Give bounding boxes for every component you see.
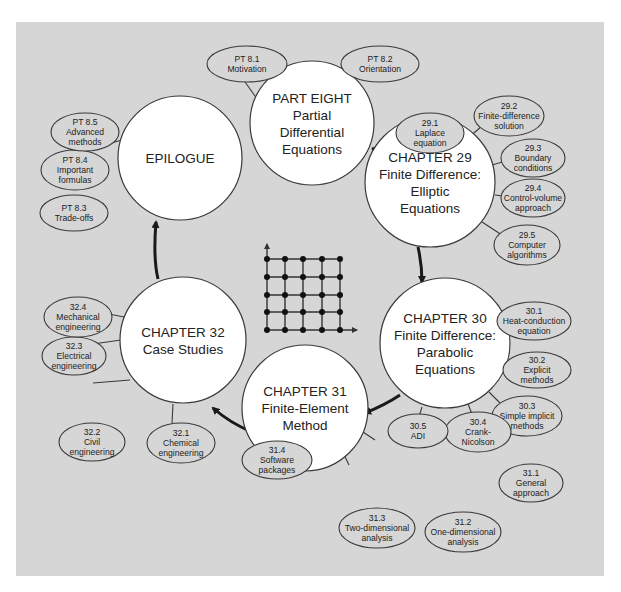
node-label: CHAPTER 31 (263, 384, 346, 399)
topic-label: formulas (59, 175, 92, 185)
topic-label: methods (521, 375, 554, 385)
topic-label: Boundary (515, 153, 552, 163)
topic-label: analysis (361, 533, 392, 543)
topic-pt-8-2: PT 8.2Orientation (341, 46, 419, 82)
topic-32-1: 32.1Chemicalengineering (147, 423, 215, 463)
topic-label: Simple implicit (500, 411, 556, 421)
topic-pt-8-1: PT 8.1Motivation (207, 46, 287, 82)
topic-number: PT 8.3 (61, 203, 86, 213)
node-label: Case Studies (143, 342, 224, 357)
topic-30-5: 30.5ADI (388, 414, 448, 448)
topic-number: 30.5 (410, 421, 427, 431)
topic-label: analysis (447, 537, 478, 547)
node-label: Equations (415, 362, 475, 377)
node-label: Finite Difference: (379, 167, 481, 182)
topic-label: Two-dimensional (345, 523, 410, 533)
topic-label: solution (494, 121, 524, 131)
topic-29-3: 29.3Boundaryconditions (501, 139, 565, 177)
node-label: Equations (400, 201, 460, 216)
node-label: Finite-Element (261, 401, 348, 416)
topic-pt-8-4: PT 8.4Importantformulas (41, 150, 109, 190)
diagram-canvas: PART EIGHTPartialDifferentialEquationsCH… (0, 0, 621, 592)
topic-number: 31.3 (369, 513, 386, 523)
topic-30-2: 30.2Explicitmethods (503, 352, 571, 388)
topic-label: ADI (411, 431, 425, 441)
topic-number: 31.2 (455, 517, 472, 527)
topic-label: equation (414, 138, 447, 148)
topic-label: engineering (52, 361, 97, 371)
topic-pt-8-3: PT 8.3Trade-offs (40, 195, 108, 231)
topic-label: engineering (56, 322, 101, 332)
topic-31-2: 31.2One-dimensionalanalysis (425, 512, 501, 552)
node-label: Finite Difference: (394, 328, 496, 343)
topic-label: Motivation (227, 64, 266, 74)
topic-label: packages (259, 465, 296, 475)
node-label: Parabolic (417, 345, 474, 360)
node-label: EPILOGUE (145, 151, 214, 166)
node-label: Partial (293, 108, 331, 123)
topic-label: Advanced (66, 127, 104, 137)
topic-label: Orientation (359, 64, 401, 74)
topic-number: 30.1 (526, 306, 543, 316)
topic-29-5: 29.5Computeralgorithms (494, 225, 560, 265)
node-label: Differential (280, 125, 344, 140)
topic-label: Computer (508, 240, 546, 250)
node-label: CHAPTER 32 (141, 325, 224, 340)
node-label: PART EIGHT (272, 91, 352, 106)
topic-31-3: 31.3Two-dimensionalanalysis (339, 508, 415, 548)
topic-label: Nicolson (462, 437, 495, 447)
topic-31-4: 31.4Softwarepackages (242, 441, 312, 479)
topic-number: 29.1 (422, 118, 439, 128)
topic-number: PT 8.2 (367, 54, 392, 64)
topic-number: PT 8.5 (72, 117, 97, 127)
topic-label: Laplace (415, 128, 445, 138)
topic-label: Control-volume (504, 193, 562, 203)
topic-30-4: 30.4Crank-Nicolson (445, 412, 511, 452)
topic-label: engineering (159, 448, 204, 458)
topic-label: Crank- (465, 427, 491, 437)
node-ch30: CHAPTER 30Finite Difference:ParabolicEqu… (380, 278, 510, 408)
topic-label: approach (515, 203, 551, 213)
topic-label: Electrical (57, 351, 92, 361)
topic-label: algorithms (507, 250, 547, 260)
node-label: Method (282, 418, 327, 433)
topic-32-4: 32.4Mechanicalengineering (44, 297, 112, 337)
topic-number: 29.4 (525, 183, 542, 193)
topic-label: approach (513, 488, 549, 498)
topic-label: General (516, 478, 547, 488)
topic-number: 31.4 (269, 445, 286, 455)
topic-label: conditions (514, 163, 553, 173)
topic-label: Finite-difference (478, 111, 540, 121)
topic-29-4: 29.4Control-volumeapproach (501, 179, 565, 217)
topic-number: 29.3 (525, 143, 542, 153)
topic-label: Chemical (163, 438, 199, 448)
node-label: Elliptic (410, 184, 449, 199)
topic-label: Software (260, 455, 294, 465)
topic-label: methods (69, 137, 102, 147)
topic-number: 29.5 (519, 230, 536, 240)
topic-29-2: 29.2Finite-differencesolution (474, 96, 544, 136)
topic-number: 32.1 (173, 428, 190, 438)
topic-number: 32.3 (66, 341, 83, 351)
topic-number: 32.2 (84, 427, 101, 437)
topic-32-3: 32.3Electricalengineering (42, 337, 106, 375)
node-epilogue: EPILOGUE (118, 96, 242, 220)
topic-label: methods (511, 421, 544, 431)
topic-number: 29.2 (501, 101, 518, 111)
topic-32-2: 32.2Civilengineering (59, 423, 125, 461)
topic-number: 30.2 (529, 355, 546, 365)
topic-label: equation (518, 326, 551, 336)
topic-number: 31.1 (523, 468, 540, 478)
topic-label: Civil (84, 437, 100, 447)
topic-label: One-dimensional (431, 527, 496, 537)
topic-label: Trade-offs (55, 213, 94, 223)
topic-30-1: 30.1Heat-conductionequation (497, 302, 571, 340)
finite-difference-grid-icon (264, 244, 357, 333)
node-ch32: CHAPTER 32Case Studies (120, 277, 246, 403)
topic-number: PT 8.4 (62, 155, 87, 165)
topic-number: 32.4 (70, 302, 87, 312)
topic-29-1: 29.1Laplaceequation (396, 113, 464, 153)
topic-label: Important (57, 165, 94, 175)
topic-label: Explicit (523, 365, 551, 375)
topic-number: 30.3 (519, 401, 536, 411)
